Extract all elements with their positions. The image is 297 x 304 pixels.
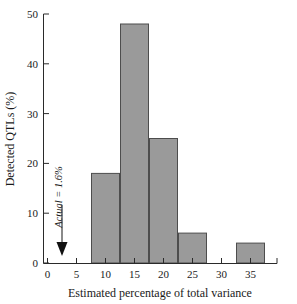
plot-bars bbox=[92, 24, 265, 263]
x-tick-label-35: 35 bbox=[245, 268, 257, 280]
x-tick-label-20: 20 bbox=[158, 268, 170, 280]
bar-bin-1 bbox=[92, 173, 120, 263]
y-axis: 50 40 30 20 10 0 bbox=[27, 8, 49, 269]
x-tick-label-0: 0 bbox=[45, 268, 51, 280]
x-tick-label-10: 10 bbox=[100, 268, 112, 280]
x-tick-label-30: 30 bbox=[216, 268, 228, 280]
actual-value-annotation: Actual = 1.6% bbox=[53, 166, 68, 256]
x-axis-title: Estimated percentage of total variance bbox=[68, 286, 252, 300]
y-tick-label-20: 20 bbox=[27, 157, 39, 169]
bar-bin-2 bbox=[121, 24, 149, 263]
y-tick-label-0: 0 bbox=[33, 257, 39, 269]
histogram-figure: 50 40 30 20 10 0 0 5 10 15 20 25 30 35 bbox=[0, 0, 297, 304]
chart-canvas: 50 40 30 20 10 0 0 5 10 15 20 25 30 35 bbox=[0, 0, 297, 304]
annotation-arrow-head bbox=[57, 242, 68, 256]
y-tick-label-10: 10 bbox=[27, 207, 39, 219]
x-tick-label-5: 5 bbox=[74, 268, 80, 280]
bar-bin-3 bbox=[150, 139, 178, 264]
y-tick-label-40: 40 bbox=[27, 58, 39, 70]
y-tick-label-50: 50 bbox=[27, 8, 39, 20]
y-axis-title: Detected QTLs (%) bbox=[3, 92, 17, 187]
x-tick-label-15: 15 bbox=[129, 268, 141, 280]
y-tick-label-30: 30 bbox=[27, 108, 39, 120]
x-tick-label-25: 25 bbox=[187, 268, 199, 280]
